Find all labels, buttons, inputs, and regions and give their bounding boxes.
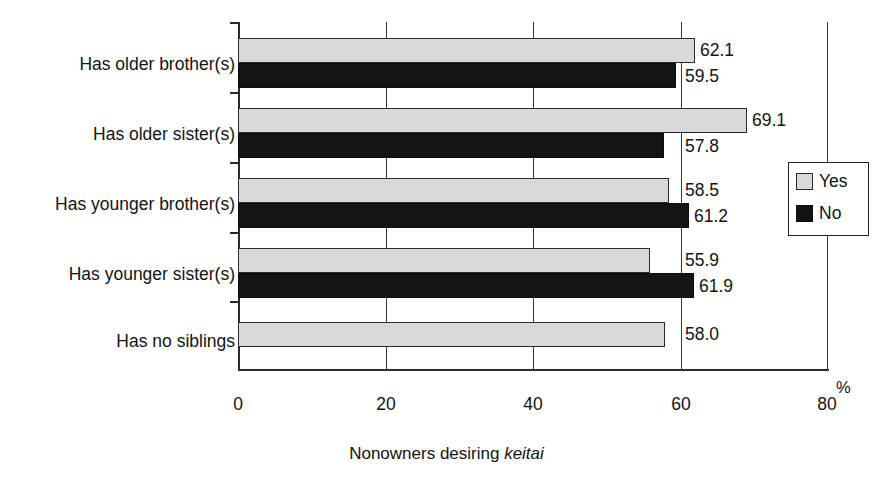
category-label-3: Has younger sister(s)	[69, 266, 235, 284]
bar-no-0	[238, 63, 676, 88]
y-tick-2	[230, 162, 238, 164]
legend-label-yes: Yes	[819, 173, 848, 191]
gridline-60	[681, 22, 682, 370]
legend-swatch-no-icon	[796, 205, 813, 222]
bar-no-1	[238, 133, 664, 158]
xtick-label-40: 40	[503, 396, 563, 414]
category-label-1: Has older sister(s)	[93, 126, 235, 144]
value-label-yes-2: 58.5	[685, 182, 719, 200]
value-label-no-0: 59.5	[685, 68, 719, 86]
value-label-yes-0: 62.1	[700, 42, 734, 60]
x-axis-title-plain: Nonowners desiring	[349, 444, 504, 463]
category-label-4: Has no siblings	[116, 333, 235, 351]
legend-item-yes: Yes	[796, 173, 848, 191]
xtick-label-20: 20	[356, 396, 416, 414]
y-tick-top	[230, 22, 238, 24]
bar-yes-3	[238, 248, 650, 273]
value-label-no-3: 61.9	[699, 278, 733, 296]
category-label-0: Has older brother(s)	[79, 56, 235, 74]
bar-yes-1	[238, 108, 747, 133]
xtick-label-80: 80	[797, 396, 857, 414]
bar-no-3	[238, 273, 694, 298]
percent-unit-label: %	[836, 378, 851, 397]
y-tick-1	[230, 92, 238, 94]
bar-yes-0	[238, 38, 695, 63]
x-axis-title: Nonowners desiring keitai	[0, 444, 893, 464]
y-tick-3	[230, 232, 238, 234]
legend-item-no: No	[796, 205, 841, 223]
xtick-label-60: 60	[651, 396, 711, 414]
legend: Yes No	[788, 162, 869, 236]
legend-swatch-yes-icon	[796, 173, 813, 190]
bar-yes-2	[238, 178, 669, 203]
category-label-2: Has younger brother(s)	[55, 196, 235, 214]
y-tick-4	[230, 301, 238, 303]
xtick-label-0: 0	[208, 396, 268, 414]
value-label-no-1: 57.8	[685, 138, 719, 156]
bar-chart: Has older brother(s) Has older sister(s)…	[0, 0, 893, 486]
value-label-no-2: 61.2	[694, 208, 728, 226]
value-label-yes-1: 69.1	[752, 112, 786, 130]
value-label-yes-4: 58.0	[685, 326, 719, 344]
legend-label-no: No	[819, 205, 841, 223]
value-label-yes-3: 55.9	[685, 252, 719, 270]
bar-yes-4	[238, 322, 665, 347]
x-axis-title-italic: keitai	[504, 444, 544, 463]
bar-no-2	[238, 203, 689, 228]
